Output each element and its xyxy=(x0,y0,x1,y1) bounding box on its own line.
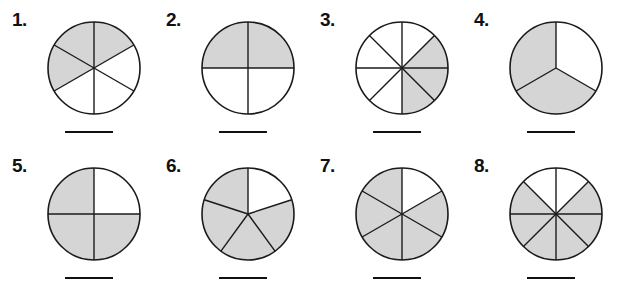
fraction-circle xyxy=(354,166,450,262)
fraction-circle-graphic xyxy=(200,20,296,116)
answer-blank[interactable] xyxy=(373,131,421,133)
fraction-circle xyxy=(354,20,450,116)
fraction-problem: 7. xyxy=(308,146,462,291)
answer-blank[interactable] xyxy=(373,277,421,279)
fraction-worksheet: 1.2.3.4. 5.6.7.8. xyxy=(0,0,617,291)
fraction-problem: 1. xyxy=(0,0,154,145)
fraction-circle-graphic xyxy=(508,166,604,262)
answer-blank[interactable] xyxy=(527,277,575,279)
fraction-circle-graphic xyxy=(46,20,142,116)
fraction-circle xyxy=(508,166,604,262)
fraction-problem: 3. xyxy=(308,0,462,145)
fraction-circle xyxy=(46,20,142,116)
fraction-problem: 5. xyxy=(0,146,154,291)
fraction-problem: 4. xyxy=(462,0,616,145)
problem-number: 1. xyxy=(12,10,27,29)
fraction-circle-graphic xyxy=(508,20,604,116)
problem-row-bottom: 5.6.7.8. xyxy=(0,146,617,291)
fraction-problem: 8. xyxy=(462,146,616,291)
answer-blank[interactable] xyxy=(219,131,267,133)
problem-number: 5. xyxy=(12,156,27,175)
problem-number: 8. xyxy=(474,156,489,175)
problem-number: 6. xyxy=(166,156,181,175)
fraction-circle-graphic xyxy=(200,166,296,262)
answer-blank[interactable] xyxy=(65,131,113,133)
answer-blank[interactable] xyxy=(219,277,267,279)
problem-number: 4. xyxy=(474,10,489,29)
fraction-circle xyxy=(200,20,296,116)
fraction-problem: 6. xyxy=(154,146,308,291)
fraction-circle-graphic xyxy=(354,166,450,262)
fraction-circle-graphic xyxy=(46,166,142,262)
fraction-circle xyxy=(200,166,296,262)
answer-blank[interactable] xyxy=(65,277,113,279)
answer-blank[interactable] xyxy=(527,131,575,133)
fraction-circle xyxy=(46,166,142,262)
problem-number: 3. xyxy=(320,10,335,29)
problem-row-top: 1.2.3.4. xyxy=(0,0,617,145)
fraction-problem: 2. xyxy=(154,0,308,145)
fraction-circle-graphic xyxy=(354,20,450,116)
problem-number: 2. xyxy=(166,10,181,29)
problem-number: 7. xyxy=(320,156,335,175)
fraction-circle xyxy=(508,20,604,116)
